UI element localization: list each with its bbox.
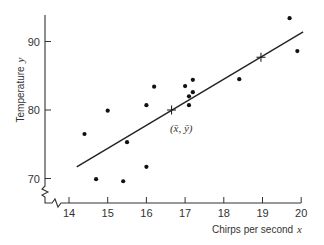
data-point [144, 103, 148, 107]
data-point [237, 77, 241, 81]
data-point [183, 84, 187, 88]
data-point [82, 132, 86, 136]
x-axis-var: x [296, 223, 302, 235]
data-point [295, 49, 299, 53]
data-point [187, 94, 191, 98]
x-tick-label: 15 [102, 207, 114, 219]
x-ticks: 14151617181920 [63, 197, 307, 219]
data-point [191, 90, 195, 94]
data-point [152, 85, 156, 89]
x-tick-label: 17 [179, 207, 191, 219]
data-point [191, 78, 195, 82]
data-point [144, 165, 148, 169]
data-point [287, 16, 291, 20]
data-point [94, 177, 98, 181]
y-axis-var: y [14, 57, 26, 63]
cross-marker [256, 53, 265, 62]
regression-line [77, 32, 303, 167]
x-tick-label: 19 [256, 207, 268, 219]
x-tick-label: 18 [218, 207, 230, 219]
scatter-chart: 14151617181920 708090 (x̄, ȳ) Temperatur… [0, 0, 324, 245]
data-point [187, 103, 191, 107]
x-tick-label: 20 [295, 207, 307, 219]
y-tick-label: 80 [28, 104, 40, 116]
annotations: (x̄, ȳ) [170, 122, 193, 135]
mean-point-label: (x̄, ȳ) [170, 122, 193, 135]
x-axis-label-text: Chirps per second [212, 224, 293, 235]
y-ticks: 708090 [28, 36, 51, 185]
x-tick-label: 16 [140, 207, 152, 219]
y-axis-label-text: Temperature [15, 66, 26, 123]
x-tick-label: 14 [63, 207, 75, 219]
data-points [82, 16, 299, 183]
data-point [125, 140, 129, 144]
data-point [106, 109, 110, 113]
regression-group [77, 32, 303, 167]
y-tick-label: 70 [28, 173, 40, 185]
cross-marker [167, 106, 176, 115]
data-point [121, 179, 125, 183]
y-axis-label: Temperaturey [14, 57, 26, 122]
y-tick-label: 90 [28, 36, 40, 48]
x-axis-label: Chirps per secondx [212, 223, 302, 235]
